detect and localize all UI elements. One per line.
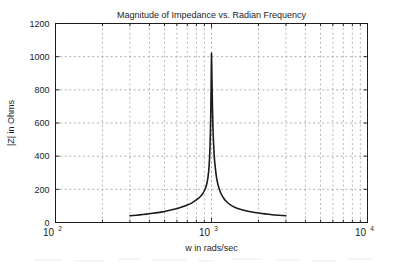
x-tick-label-exponent: 3 [214, 225, 218, 232]
chart-title: Magnitude of Impedance vs. Radian Freque… [117, 10, 307, 20]
y-tick-label: 1200 [29, 19, 49, 29]
x-axis-label: w in rads/sec [184, 243, 238, 253]
figure-canvas: 020040060080010001200 102103104 Magnitud… [0, 0, 397, 267]
x-tick-label-exponent: 4 [370, 225, 374, 232]
y-tick-label: 1000 [29, 52, 49, 62]
impedance-magnitude-chart: 020040060080010001200 102103104 Magnitud… [0, 0, 397, 267]
x-tick-label-exponent: 2 [58, 225, 62, 232]
x-tick-label-base: 10 [199, 227, 211, 238]
x-tick-label-base: 10 [43, 227, 55, 238]
x-tick-label-base: 10 [355, 227, 367, 238]
y-axis-label: |Z| in Ohms [6, 99, 16, 146]
y-tick-label: 400 [34, 151, 49, 161]
y-tick-label: 200 [34, 185, 49, 195]
y-tick-label: 600 [34, 118, 49, 128]
y-tick-label: 800 [34, 85, 49, 95]
